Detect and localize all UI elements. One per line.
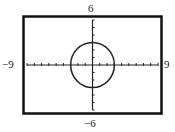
x-max-label: 9 [164,59,170,70]
graph-window [0,0,175,132]
y-min-label: −6 [84,118,96,129]
x-min-label: −9 [2,59,14,70]
y-max-label: 6 [88,3,94,14]
axes [27,20,158,110]
